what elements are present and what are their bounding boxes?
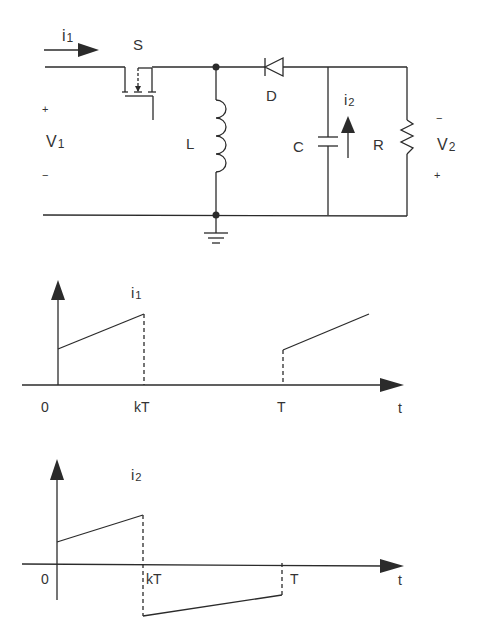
- label-inductor: L: [186, 136, 194, 151]
- waveform-i1-trace: [58, 314, 369, 385]
- waveform-i2-axis-t: t: [398, 573, 402, 587]
- input-current-arrow: [44, 43, 99, 57]
- label-diode: D: [266, 88, 277, 103]
- inductor-icon: [216, 67, 226, 215]
- diagram-canvas: [0, 0, 478, 643]
- waveform-i2-label: i2: [131, 467, 142, 482]
- bottom-wire: [43, 215, 407, 216]
- label-capacitor: C: [293, 139, 304, 154]
- resistor-icon: [401, 67, 413, 216]
- label-resistor: R: [373, 137, 384, 152]
- label-switch: S: [133, 37, 143, 52]
- capacitor-icon: [318, 67, 338, 215]
- waveform-i2-axes: [22, 459, 404, 600]
- label-i2-current: i2: [344, 92, 355, 107]
- label-v1-minus: −: [42, 170, 48, 181]
- waveform-i1-axis-t: t: [398, 401, 402, 415]
- waveform-i1-tick-kT: kT: [134, 400, 150, 414]
- mosfet-switch-icon: [122, 67, 216, 120]
- waveform-i1-label: i1: [131, 285, 142, 300]
- waveform-i1-origin: 0: [41, 400, 49, 414]
- waveform-i2-tick-kT: kT: [146, 572, 162, 586]
- diode-icon: [265, 58, 407, 76]
- label-v1: V1: [46, 134, 64, 150]
- waveform-i2-tick-T: T: [290, 572, 299, 586]
- label-v2: V2: [437, 137, 455, 153]
- output-current-arrow: [341, 116, 355, 158]
- waveform-i2-origin: 0: [41, 572, 49, 586]
- label-v2-plus: +: [434, 170, 440, 181]
- label-v2-minus: −: [436, 113, 442, 124]
- label-v1-plus: +: [42, 104, 48, 115]
- waveform-i1-axes: [22, 280, 404, 392]
- label-i1-current: i1: [62, 28, 73, 44]
- waveform-i1-tick-T: T: [277, 400, 286, 414]
- ground-icon: [204, 215, 228, 243]
